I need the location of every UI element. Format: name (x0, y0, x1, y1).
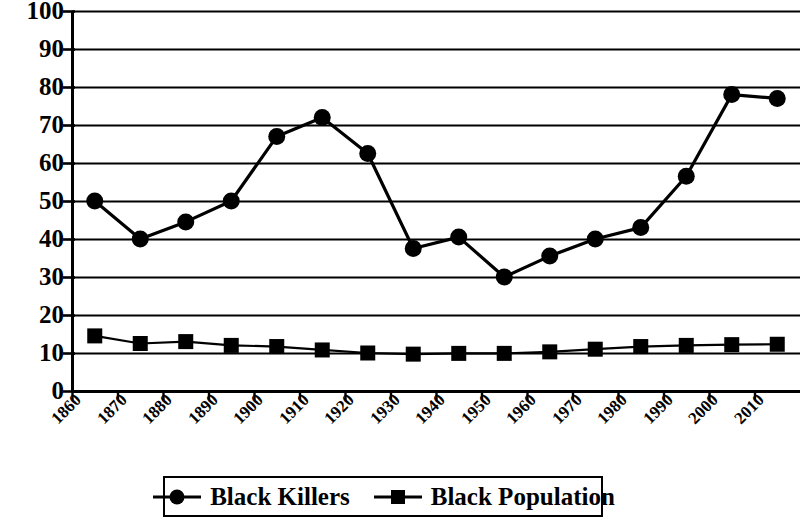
data-point-circle (359, 145, 376, 162)
data-point-circle (86, 193, 103, 210)
legend-square-marker-icon (372, 486, 424, 508)
data-point-square (633, 339, 648, 354)
data-point-circle (723, 86, 740, 103)
data-point-square (679, 338, 694, 353)
legend-item-black-population: Black Population (372, 484, 615, 509)
legend-circle-marker-icon (151, 486, 203, 508)
data-point-square (269, 339, 284, 354)
data-point-square (542, 344, 557, 359)
series-black-killers (86, 86, 786, 285)
data-point-circle (405, 240, 422, 257)
data-point-square (315, 342, 330, 357)
data-point-square (406, 347, 421, 362)
data-point-circle (132, 231, 149, 248)
series-line (95, 336, 778, 354)
data-point-circle (450, 229, 467, 246)
data-point-square (770, 337, 785, 352)
plot-area (0, 0, 808, 410)
data-point-circle (769, 90, 786, 107)
data-point-square (724, 337, 739, 352)
series-black-population (87, 328, 785, 361)
legend-label-black-population: Black Population (431, 484, 615, 509)
data-point-circle (541, 248, 558, 265)
data-point-square (87, 328, 102, 343)
series-line (95, 95, 778, 277)
data-point-square (588, 342, 603, 357)
data-point-circle (587, 231, 604, 248)
data-point-square (178, 334, 193, 349)
data-point-square (497, 346, 512, 361)
data-point-square (133, 336, 148, 351)
data-point-square (224, 338, 239, 353)
data-point-square (360, 346, 375, 361)
legend-label-black-killers: Black Killers (210, 484, 350, 509)
data-point-circle (268, 128, 285, 145)
data-point-circle (678, 168, 695, 185)
chart-legend: Black Killers Black Population (163, 476, 603, 517)
data-point-circle (223, 193, 240, 210)
line-chart: 0102030405060708090100 18601870188018901… (0, 0, 808, 526)
data-point-square (451, 346, 466, 361)
data-point-circle (496, 269, 513, 286)
data-point-circle (314, 109, 331, 126)
data-series-layer (86, 86, 786, 362)
data-point-circle (632, 219, 649, 236)
data-point-circle (177, 213, 194, 230)
legend-item-black-killers: Black Killers (151, 484, 350, 509)
